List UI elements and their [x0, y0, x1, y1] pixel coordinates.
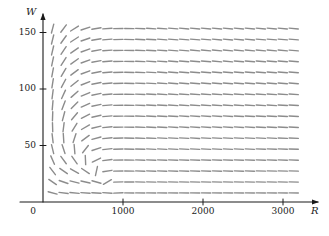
- field-segment: [49, 179, 57, 184]
- field-segment: [52, 35, 54, 44]
- field-segment: [62, 112, 64, 121]
- field-segment: [223, 94, 232, 95]
- field-segment: [61, 156, 66, 163]
- field-segment: [103, 149, 112, 150]
- field-segment: [256, 116, 265, 117]
- field-segment: [63, 123, 64, 132]
- field-segment: [234, 127, 243, 128]
- field-segment: [92, 72, 101, 74]
- field-segment: [60, 168, 68, 173]
- field-segment: [278, 39, 287, 40]
- field-segment: [81, 125, 89, 130]
- field-segment: [190, 116, 199, 117]
- field-segment: [52, 57, 54, 66]
- field-segment: [158, 138, 167, 139]
- field-segment: [103, 127, 112, 128]
- slope-field-figure: W R 150 100 50 0 1000 2000 3000: [0, 0, 329, 236]
- field-segment: [245, 72, 254, 73]
- x-axis-label: R: [311, 205, 319, 216]
- field-segment: [103, 170, 112, 171]
- field-segment: [63, 134, 64, 143]
- field-segment: [158, 116, 167, 117]
- field-segment: [147, 61, 156, 62]
- field-segment: [169, 72, 178, 73]
- field-segment: [147, 50, 156, 51]
- field-segment: [212, 94, 221, 95]
- field-segment: [61, 68, 66, 76]
- field-segment: [147, 83, 156, 84]
- field-segment: [256, 94, 265, 95]
- field-segment: [92, 158, 100, 162]
- field-segment: [81, 82, 90, 85]
- field-segment: [180, 83, 189, 84]
- field-segment: [289, 83, 298, 84]
- field-segment: [256, 50, 265, 51]
- field-segment: [50, 167, 56, 174]
- field-segment: [278, 83, 287, 84]
- field-segment: [59, 180, 68, 183]
- field-segment: [267, 94, 276, 95]
- field-segment: [103, 61, 112, 62]
- field-segment: [201, 94, 210, 95]
- field-segment: [81, 38, 90, 41]
- field-segment: [289, 28, 298, 29]
- field-segment: [245, 127, 254, 128]
- field-segment: [72, 123, 77, 131]
- field-segment: [278, 127, 287, 128]
- field-segment: [267, 28, 276, 29]
- field-segment: [169, 28, 178, 29]
- field-segment: [92, 126, 101, 128]
- field-segment: [147, 105, 156, 106]
- field-segment: [169, 105, 178, 106]
- field-segment: [92, 115, 101, 117]
- field-segment: [81, 27, 90, 30]
- y-axis-arrowhead: [40, 13, 45, 20]
- field-segment: [256, 127, 265, 128]
- field-segment: [81, 114, 89, 118]
- field-segment: [103, 160, 112, 161]
- field-segment: [61, 36, 66, 43]
- field-segment: [169, 61, 178, 62]
- field-segment: [71, 169, 79, 174]
- field-segment: [92, 193, 101, 194]
- field-segment: [201, 39, 210, 40]
- field-segment: [212, 28, 221, 29]
- field-segment: [48, 192, 57, 194]
- field-segment: [169, 138, 178, 139]
- field-segment: [289, 50, 298, 51]
- field-segment: [92, 181, 101, 183]
- field-segment: [201, 28, 210, 29]
- field-segment: [256, 105, 265, 106]
- field-segment: [191, 72, 200, 73]
- field-segment: [103, 180, 111, 185]
- field-segment: [158, 127, 167, 128]
- field-segment: [169, 127, 178, 128]
- field-segment: [234, 94, 243, 95]
- field-segment: [190, 83, 199, 84]
- field-segment: [147, 72, 156, 73]
- field-segment: [83, 146, 89, 153]
- field-segment: [81, 71, 90, 74]
- field-segment: [245, 28, 254, 29]
- x-tick-label-1000: 1000: [103, 206, 143, 216]
- origin-label: 0: [26, 206, 40, 216]
- field-segment: [212, 127, 221, 128]
- field-segment: [256, 28, 265, 29]
- field-segment: [234, 83, 243, 84]
- field-segment: [180, 61, 189, 62]
- field-segment: [103, 94, 112, 95]
- field-segment: [147, 39, 156, 40]
- field-segment: [256, 61, 265, 62]
- field-segment: [234, 61, 243, 62]
- field-segment: [190, 94, 199, 95]
- field-segment: [180, 28, 189, 29]
- field-segment: [267, 105, 276, 106]
- field-segment: [201, 127, 210, 128]
- field-segment: [103, 28, 112, 29]
- field-segment: [147, 94, 156, 95]
- field-segment: [201, 72, 210, 73]
- field-segment: [51, 24, 53, 33]
- field-segment: [61, 25, 67, 32]
- field-segment: [103, 39, 112, 40]
- field-segment: [103, 193, 112, 194]
